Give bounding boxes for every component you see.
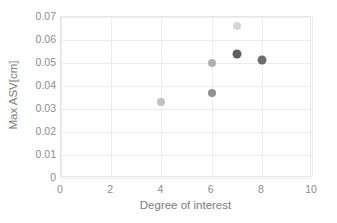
- gridline-horizontal: [61, 155, 310, 156]
- gridline-horizontal: [61, 17, 310, 18]
- point-6-0050: [208, 59, 216, 67]
- gridline-horizontal: [61, 63, 310, 64]
- gridline-vertical: [262, 17, 263, 176]
- gridline-horizontal: [61, 40, 310, 41]
- gridline-vertical: [111, 17, 112, 176]
- x-axis-title: Degree of interest: [60, 200, 311, 212]
- gridline-horizontal: [61, 132, 310, 133]
- point-6-0037: [208, 89, 216, 97]
- point-7-0054: [232, 49, 241, 58]
- y-axis-title: Max ASV[cm]: [8, 60, 20, 129]
- x-axis-tick-labels: 0246810: [0, 184, 337, 198]
- x-tick-label: 6: [208, 184, 214, 195]
- x-tick-label: 8: [258, 184, 264, 195]
- x-tick-label: 4: [157, 184, 163, 195]
- gridline-vertical: [312, 17, 313, 176]
- x-tick-label: 10: [305, 184, 317, 195]
- x-tick-label: 2: [107, 184, 113, 195]
- gridline-vertical: [61, 17, 62, 176]
- gridline-horizontal: [61, 86, 310, 87]
- gridline-vertical: [161, 17, 162, 176]
- gridline-horizontal: [61, 178, 310, 179]
- point-4-0033: [157, 98, 165, 106]
- gridline-horizontal: [61, 109, 310, 110]
- x-tick-label: 0: [57, 184, 63, 195]
- scatter-chart: 00.010.020.030.040.050.060.07 0246810 Ma…: [0, 0, 337, 223]
- point-7-0066: [233, 22, 241, 30]
- y-axis-title-wrapper: Max ASV[cm]: [6, 10, 24, 180]
- plot-area: [60, 16, 311, 177]
- point-8-0051: [257, 56, 266, 65]
